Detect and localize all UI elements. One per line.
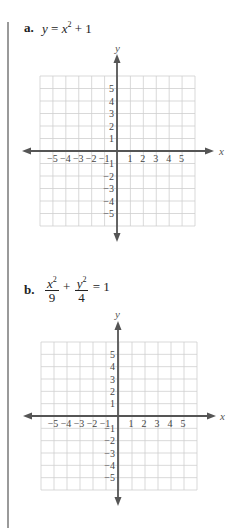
y-tick-label: 1 bbox=[109, 133, 114, 144]
x-tick-label: 4 bbox=[168, 418, 173, 429]
x-tick-label: −4 bbox=[60, 153, 71, 164]
x-axis-right-arrow-icon bbox=[205, 148, 214, 155]
x-tick-label: 1 bbox=[127, 153, 132, 164]
x-tick-label: −5 bbox=[48, 418, 59, 429]
y-tick-label: −2 bbox=[104, 435, 115, 446]
x-axis-right-arrow-icon bbox=[207, 413, 216, 420]
x-axis-label-b: x bbox=[219, 410, 225, 422]
y-axis-label-b: y bbox=[114, 308, 120, 320]
y-tick-label: 2 bbox=[109, 121, 114, 132]
x-tick-label: −2 bbox=[87, 418, 98, 429]
y-tick-label: 4 bbox=[109, 96, 114, 107]
graph-b: x y −5−4−3−2−11234554321−1−2−3−4−5 bbox=[0, 260, 238, 528]
y-axis-label-a: y bbox=[114, 42, 120, 54]
y-tick-label: 3 bbox=[109, 108, 114, 119]
x-tick-label: −3 bbox=[74, 418, 85, 429]
x-tick-label: 3 bbox=[153, 153, 158, 164]
x-tick-label: 5 bbox=[181, 418, 186, 429]
y-tick-label: −4 bbox=[104, 460, 115, 471]
x-tick-label: 2 bbox=[142, 418, 147, 429]
y-tick-label: 2 bbox=[110, 386, 115, 397]
y-tick-label: −1 bbox=[104, 423, 115, 434]
y-tick-label: 3 bbox=[110, 374, 115, 385]
y-axis-down-arrow-icon bbox=[115, 497, 122, 506]
x-tick-label: 1 bbox=[129, 418, 134, 429]
y-tick-label: −3 bbox=[103, 183, 114, 194]
x-tick-label: 3 bbox=[155, 418, 160, 429]
y-tick-label: 5 bbox=[110, 349, 115, 360]
x-tick-label: −3 bbox=[73, 153, 84, 164]
x-axis-left-arrow-icon bbox=[23, 413, 32, 420]
y-tick-label: −2 bbox=[103, 171, 114, 182]
y-axis-down-arrow-icon bbox=[114, 233, 121, 242]
graph-a: x y −5−4−3−2−11234554321−1−2−3−4−5 bbox=[0, 0, 238, 260]
y-tick-label: −5 bbox=[104, 472, 115, 483]
x-axis-label-a: x bbox=[218, 145, 224, 157]
x-axis-left-arrow-icon bbox=[22, 148, 31, 155]
x-tick-label: 2 bbox=[140, 153, 145, 164]
y-tick-label: 5 bbox=[109, 83, 114, 94]
y-tick-label: −3 bbox=[104, 448, 115, 459]
y-tick-label: −5 bbox=[103, 208, 114, 219]
y-tick-label: −1 bbox=[103, 158, 114, 169]
x-tick-label: −5 bbox=[47, 153, 58, 164]
x-tick-label: −4 bbox=[61, 418, 72, 429]
y-axis-up-arrow-icon bbox=[114, 54, 121, 63]
x-tick-label: 5 bbox=[179, 153, 184, 164]
x-tick-label: 4 bbox=[166, 153, 171, 164]
x-tick-label: −2 bbox=[86, 153, 97, 164]
y-tick-label: 4 bbox=[110, 361, 115, 372]
y-tick-label: 1 bbox=[110, 398, 115, 409]
y-axis-up-arrow-icon bbox=[115, 321, 122, 330]
y-tick-label: −4 bbox=[103, 196, 114, 207]
